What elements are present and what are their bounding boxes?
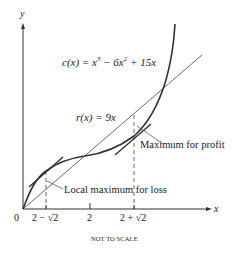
origin-label: 0	[14, 212, 19, 223]
x-axis-arrow-icon	[206, 207, 212, 211]
tick-label-2-minus-sqrt2: 2 − √2	[32, 212, 58, 223]
y-axis-label: y	[20, 8, 24, 19]
x-axis-label: x	[214, 203, 218, 214]
revenue-line-label: r(x) = 9x	[76, 111, 116, 123]
max-profit-annotation: Maximum for profit	[140, 139, 225, 150]
tick-label-2: 2	[87, 212, 92, 223]
local-max-loss-annotation: Local maximum for loss	[64, 184, 167, 195]
cost-curve-label: c(x) = x3 − 6x2 + 15x	[62, 55, 156, 68]
leader-local-max-loss	[47, 181, 63, 189]
tick-label-2-plus-sqrt2: 2 + √2	[120, 212, 146, 223]
tangent-left	[29, 157, 63, 187]
y-axis-arrow-icon	[21, 23, 25, 29]
not-to-scale-note: NOT TO SCALE	[91, 235, 138, 242]
